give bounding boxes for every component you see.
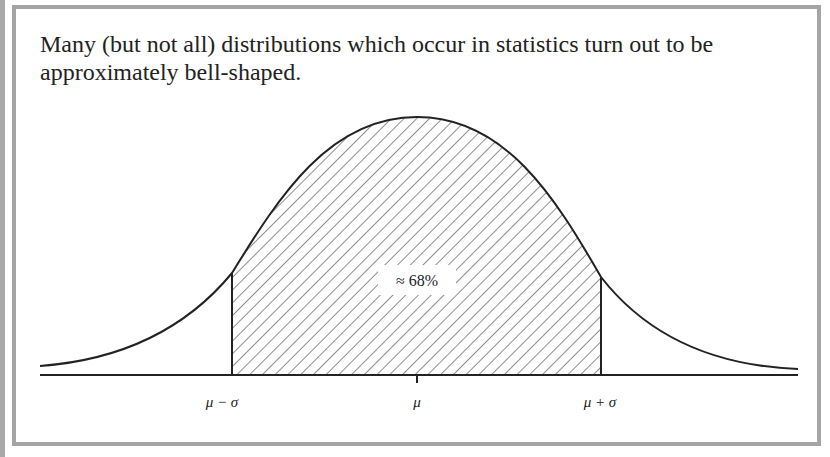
shaded-68-region	[232, 117, 601, 375]
bell-curve-diagram: ≈ 68% μ − σ μ μ + σ	[0, 0, 830, 457]
percent-label: ≈ 68%	[396, 272, 438, 289]
tick-label-mu-minus-sigma: μ − σ	[205, 394, 239, 410]
tick-label-mu: μ	[412, 394, 421, 410]
tick-label-mu-plus-sigma: μ + σ	[583, 394, 617, 410]
